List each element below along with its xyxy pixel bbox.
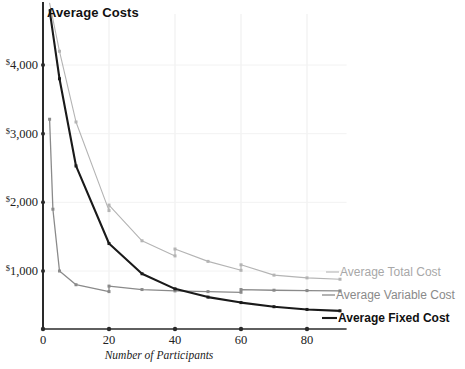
x-axis-tick-label: 80 — [287, 333, 327, 348]
x-axis-tick-label: 40 — [155, 333, 195, 348]
series-average-fixed-cost — [50, 10, 342, 312]
y-axis-tick-label: $1,000 — [0, 263, 38, 279]
gridlines — [43, 14, 347, 329]
series-average-total-cost — [50, 3, 342, 281]
x-axis-tick-label: 20 — [89, 333, 129, 348]
x-axis-tick-label: 0 — [23, 333, 63, 348]
x-axis-tick-label: 60 — [221, 333, 261, 348]
chart-title: Average Costs — [47, 5, 139, 20]
axes — [43, 2, 347, 329]
y-axis-tick-label: $4,000 — [0, 57, 38, 73]
legend-label-average-variable-cost: Average Variable Cost — [336, 288, 455, 302]
y-axis-tick-label: $3,000 — [0, 126, 38, 142]
legend-label-average-total-cost: Average Total Cost — [340, 265, 441, 279]
x-axis-title: Number of Participants — [0, 349, 318, 361]
legend-label-average-fixed-cost: Average Fixed Cost — [338, 311, 450, 325]
average-costs-chart: Average Costs Number of Participants Ave… — [0, 0, 465, 369]
y-axis-tick-label: $2,000 — [0, 194, 38, 210]
